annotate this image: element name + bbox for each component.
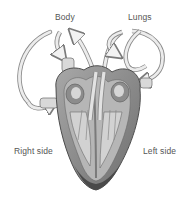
heart-illustration — [0, 0, 188, 211]
lungs-label: Lungs — [128, 12, 152, 22]
body-label: Body — [55, 12, 75, 22]
right-side-label: Right side — [14, 146, 53, 156]
heart-diagram: Body Lungs Right side Left side — [0, 0, 188, 211]
heart-body — [56, 66, 140, 190]
left-side-label: Left side — [143, 146, 176, 156]
